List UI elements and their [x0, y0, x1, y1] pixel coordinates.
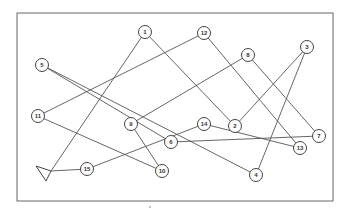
edge-3-4	[256, 47, 307, 175]
node-label: 15	[84, 166, 91, 172]
edge-12-11	[38, 33, 204, 116]
node-label: 12	[201, 30, 208, 36]
node-5: 5	[36, 59, 49, 72]
node-11: 11	[32, 110, 45, 123]
node-13: 13	[294, 142, 307, 155]
edge-start-1	[51, 32, 145, 171]
edge-15-14	[87, 124, 204, 169]
node-7: 7	[313, 130, 326, 143]
node-6: 6	[165, 136, 178, 149]
edge-6-7	[171, 136, 319, 142]
edge-8-9	[131, 55, 248, 124]
edge-14-13	[204, 124, 300, 148]
node-2: 2	[229, 120, 242, 133]
connect-the-dots-diagram: 112835271191461315104	[0, 0, 361, 212]
node-label: 14	[201, 121, 208, 127]
node-label: 10	[159, 168, 166, 174]
node-1: 1	[139, 26, 152, 39]
edge-1-2	[145, 32, 235, 126]
node-9: 9	[125, 118, 138, 131]
node-4: 4	[250, 169, 263, 182]
edge-8-7	[248, 55, 319, 136]
stray-mark	[149, 206, 151, 208]
node-12: 12	[198, 27, 211, 40]
diagram-frame	[17, 13, 333, 201]
node-15: 15	[81, 163, 94, 176]
edges-layer	[38, 32, 319, 175]
edge-5-6	[42, 65, 171, 142]
node-8: 8	[242, 49, 255, 62]
start-triangle-icon	[36, 166, 51, 181]
node-3: 3	[301, 41, 314, 54]
nodes-layer: 112835271191461315104	[32, 26, 326, 182]
node-label: 11	[35, 113, 42, 119]
node-label: 13	[297, 145, 304, 151]
edge-5-4	[42, 65, 256, 175]
node-10: 10	[156, 165, 169, 178]
node-14: 14	[198, 118, 211, 131]
